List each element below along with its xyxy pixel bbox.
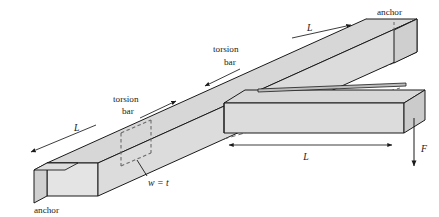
anchor-top-right-label: anchor <box>377 7 402 17</box>
anchor-bottom-left-label: anchor <box>34 205 59 215</box>
dim-label-lower-left: L <box>73 122 79 133</box>
cross-section-label: w = t <box>148 177 169 188</box>
horizontal-beam-front-face <box>224 103 404 133</box>
torsion-bar-upper-label-line1: torsion <box>213 44 239 54</box>
force-label: F <box>420 143 428 154</box>
dim-label-beam: L <box>302 151 308 162</box>
dim-label-upper-right: L <box>306 22 312 33</box>
torsion-bar-lower-label-line1: torsion <box>113 94 139 104</box>
torsion-bar-upper-label-line2: bar <box>224 57 236 67</box>
torsion-bar-lower-label-line2: bar <box>122 106 134 116</box>
figure-canvas: w = t L L L F torsion bar torsion bar <box>0 0 439 217</box>
torsion-bar-diagram: w = t L L L F torsion bar torsion bar <box>0 0 439 217</box>
horizontal-beam-top-face <box>224 90 425 103</box>
